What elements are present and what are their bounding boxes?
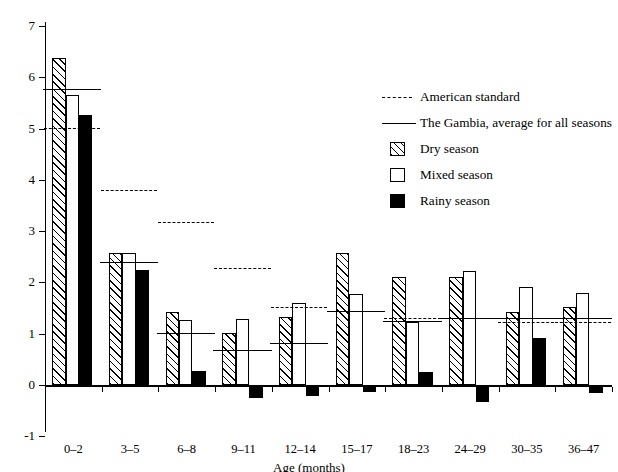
x-tick-1 (102, 387, 103, 392)
bar-mixed-9 (576, 293, 589, 385)
x-tick-label-8: 30–35 (499, 443, 556, 456)
y-tick-label-4: 4 (5, 173, 35, 186)
y-tick-3 (39, 231, 45, 232)
x-tick-label-7: 24–29 (442, 443, 499, 456)
bar-dry-1 (109, 253, 122, 385)
american-standard-line-3 (214, 268, 270, 269)
y-tick-label-2: 2 (5, 275, 35, 288)
gambia-average-line-1 (100, 262, 158, 263)
bar-rainy-3 (249, 385, 262, 398)
bar-mixed-0 (66, 95, 79, 385)
x-tick-4 (272, 387, 273, 392)
american-standard-line-0 (44, 128, 100, 129)
legend-label-0: American standard (420, 89, 520, 105)
x-tick-label-6: 18–23 (385, 443, 442, 456)
x-tick-5 (329, 387, 330, 392)
y-axis-line (45, 22, 46, 432)
american-standard-line-9 (555, 322, 611, 323)
x-tick-8 (499, 387, 500, 392)
legend-item-3: Mixed season (382, 166, 618, 192)
x-tick-0 (45, 387, 46, 392)
bar-rainy-8 (533, 338, 546, 385)
legend-item-0: American standard (382, 88, 618, 114)
bar-rainy-7 (476, 385, 489, 402)
bar-mixed-3 (236, 319, 249, 385)
y-tick--1 (39, 436, 45, 437)
chart-legend: American standardThe Gambia, average for… (382, 88, 618, 218)
bar-rainy-2 (192, 371, 205, 385)
gambia-average-line-9 (554, 318, 612, 319)
solid-line-icon (382, 123, 416, 124)
x-tick-label-1: 3–5 (102, 443, 159, 456)
bar-dry-5 (336, 253, 349, 385)
bar-rainy-6 (419, 372, 432, 385)
gambia-average-line-5 (327, 311, 385, 312)
open-swatch-icon (390, 168, 405, 182)
hatched-swatch-icon (390, 142, 405, 156)
gambia-average-line-7 (440, 318, 498, 319)
y-tick-6 (39, 77, 45, 78)
bar-mixed-1 (122, 253, 135, 385)
x-tick-label-2: 6–8 (158, 443, 215, 456)
y-tick-5 (39, 129, 45, 130)
x-tick-9 (555, 387, 556, 392)
bar-mixed-7 (463, 271, 476, 385)
gambia-average-line-4 (270, 343, 328, 344)
bar-mixed-4 (292, 303, 305, 385)
gambia-average-line-6 (383, 321, 441, 322)
bar-rainy-4 (306, 385, 319, 396)
x-tick-label-4: 12–14 (272, 443, 329, 456)
x-tick-6 (385, 387, 386, 392)
american-standard-line-6 (384, 318, 440, 319)
y-tick-label-6: 6 (5, 70, 35, 83)
legend-label-1: The Gambia, average for all seasons (420, 115, 612, 131)
gambia-average-line-8 (497, 318, 555, 319)
x-tick-label-3: 9–11 (215, 443, 272, 456)
bar-dry-7 (449, 277, 462, 385)
y-tick-label-3: 3 (5, 224, 35, 237)
american-standard-line-1 (101, 190, 157, 191)
y-tick-label-1: 1 (5, 327, 35, 340)
bar-mixed-6 (406, 322, 419, 385)
legend-item-2: Dry season (382, 140, 618, 166)
legend-item-4: Rainy season (382, 192, 618, 218)
x-tick-10 (612, 387, 613, 392)
legend-item-1: The Gambia, average for all seasons (382, 114, 618, 140)
bar-dry-6 (392, 277, 405, 385)
x-tick-7 (442, 387, 443, 392)
x-tick-3 (215, 387, 216, 392)
bar-dry-4 (279, 317, 292, 385)
bar-dry-2 (166, 312, 179, 385)
legend-label-3: Mixed season (420, 167, 493, 183)
gambia-average-line-0 (43, 89, 101, 90)
y-tick-0 (39, 385, 45, 386)
y-tick-1 (39, 334, 45, 335)
bar-rainy-0 (79, 115, 92, 385)
bar-mixed-8 (519, 287, 532, 385)
american-standard-line-4 (271, 307, 327, 308)
bar-rainy-1 (136, 270, 149, 385)
plot-area: -1012345670–23–56–89–1112–1415–1718–2324… (0, 0, 618, 472)
gambia-average-line-2 (157, 333, 215, 334)
filled-swatch-icon (390, 194, 405, 208)
y-tick-4 (39, 180, 45, 181)
bar-dry-3 (222, 333, 235, 385)
x-tick-label-0: 0–2 (45, 443, 102, 456)
y-tick-2 (39, 282, 45, 283)
american-standard-line-2 (158, 222, 214, 223)
x-tick-label-9: 36–47 (555, 443, 612, 456)
bar-rainy-9 (589, 385, 602, 393)
x-tick-label-5: 15–17 (329, 443, 386, 456)
bar-mixed-2 (179, 320, 192, 385)
chart-figure: -1012345670–23–56–89–1112–1415–1718–2324… (0, 0, 618, 472)
legend-label-2: Dry season (420, 141, 479, 157)
y-tick-label-7: 7 (5, 19, 35, 32)
bar-mixed-5 (349, 294, 362, 385)
x-axis-title: Age (months) (0, 460, 618, 472)
gambia-average-line-3 (213, 350, 271, 351)
bar-rainy-5 (363, 385, 376, 392)
dashed-line-icon (382, 97, 412, 98)
y-tick-label--1: -1 (5, 429, 35, 442)
bar-dry-0 (52, 58, 65, 385)
y-tick-label-0: 0 (5, 378, 35, 391)
